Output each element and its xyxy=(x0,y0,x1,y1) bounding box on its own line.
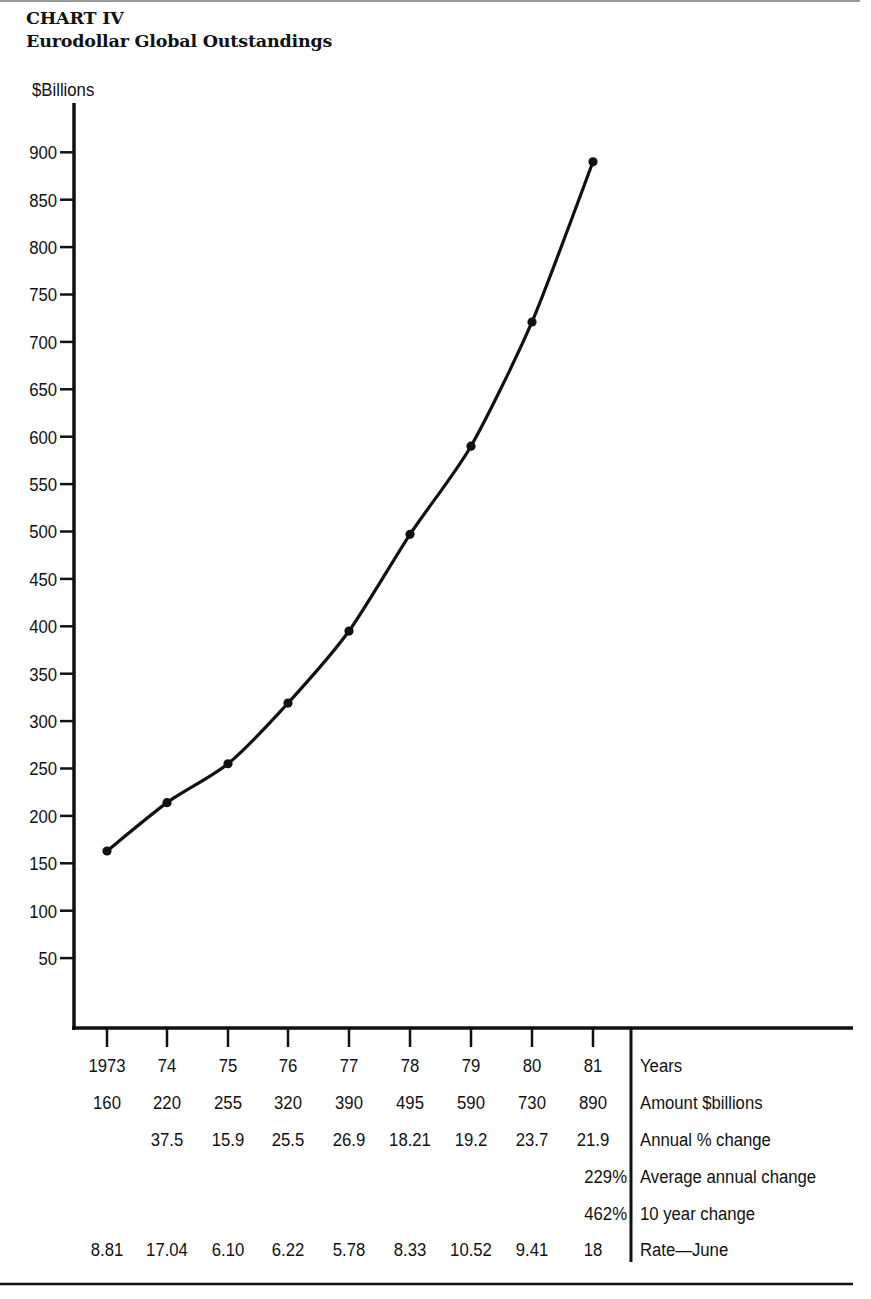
y-tick-label: 750 xyxy=(29,285,57,306)
data-table: 19737475767778798081Years160220255320390… xyxy=(88,1055,816,1260)
data-point-marker xyxy=(162,798,171,807)
data-series xyxy=(102,157,597,855)
rate-june-row-cell: 6.10 xyxy=(212,1239,245,1260)
annual-change-row-cell: 18.21 xyxy=(389,1129,431,1150)
years-row-cell: 1973 xyxy=(88,1055,125,1076)
data-point-marker xyxy=(283,698,292,707)
y-tick-label: 450 xyxy=(29,569,57,590)
years-row-cell: 74 xyxy=(158,1055,177,1076)
amount-row-cell: 320 xyxy=(274,1092,302,1113)
amount-row-cell: 495 xyxy=(396,1092,424,1113)
annual-change-row-cell: 37.5 xyxy=(151,1129,184,1150)
annual-change-row-cell: 21.9 xyxy=(577,1129,610,1150)
y-tick-label: 50 xyxy=(38,948,57,969)
y-tick-label: 600 xyxy=(29,427,57,448)
rate-june-row-cell: 9.41 xyxy=(516,1239,549,1260)
amount-row-cell: 890 xyxy=(579,1092,607,1113)
annual-change-row-cell: 26.9 xyxy=(333,1129,366,1150)
data-point-marker xyxy=(466,442,475,451)
rate-june-row-cell: 6.22 xyxy=(272,1239,305,1260)
years-row-cell: 78 xyxy=(401,1055,420,1076)
line-chart: 5010015020025030035040045050055060065070… xyxy=(0,0,871,1299)
years-row-cell: 81 xyxy=(584,1055,603,1076)
years-row-cell: 79 xyxy=(462,1055,481,1076)
y-tick-label: 250 xyxy=(29,759,57,780)
y-tick-label: 700 xyxy=(29,332,57,353)
years-row-cell: 80 xyxy=(523,1055,542,1076)
y-tick-label: 200 xyxy=(29,806,57,827)
y-tick-label: 500 xyxy=(29,522,57,543)
amount-row-cell: 730 xyxy=(518,1092,546,1113)
average-change-row-cell: 229% xyxy=(584,1166,627,1187)
data-point-marker xyxy=(588,157,597,166)
amount-row-cell: 160 xyxy=(93,1092,121,1113)
y-tick-label: 350 xyxy=(29,664,57,685)
y-tick-label: 900 xyxy=(29,142,57,163)
annual-change-row-cell: 15.9 xyxy=(212,1129,245,1150)
y-tick-label: 550 xyxy=(29,474,57,495)
years-row-cell: 77 xyxy=(340,1055,359,1076)
years-row-label: Years xyxy=(640,1055,682,1076)
y-tick-label: 650 xyxy=(29,379,57,400)
rate-june-row-label: Rate—June xyxy=(640,1239,728,1260)
average-change-row-label: Average annual change xyxy=(640,1166,816,1187)
y-tick-label: 400 xyxy=(29,616,57,637)
amount-row-label: Amount $billions xyxy=(640,1092,763,1113)
data-point-marker xyxy=(527,317,536,326)
rate-june-row-cell: 5.78 xyxy=(333,1239,366,1260)
y-tick-label: 100 xyxy=(29,901,57,922)
amount-row-cell: 590 xyxy=(457,1092,485,1113)
y-tick-label: 800 xyxy=(29,237,57,258)
annual-change-row-cell: 25.5 xyxy=(272,1129,305,1150)
amount-row-cell: 390 xyxy=(335,1092,363,1113)
rate-june-row-cell: 8.81 xyxy=(91,1239,124,1260)
series-line xyxy=(107,162,593,851)
rate-june-row-cell: 18 xyxy=(584,1239,603,1260)
amount-row-cell: 220 xyxy=(153,1092,181,1113)
rate-june-row-cell: 17.04 xyxy=(146,1239,188,1260)
annual-change-row-label: Annual % change xyxy=(640,1129,771,1150)
data-point-marker xyxy=(344,626,353,635)
amount-row-cell: 255 xyxy=(214,1092,242,1113)
ten-year-row-cell: 462% xyxy=(584,1203,627,1224)
annual-change-row-cell: 23.7 xyxy=(516,1129,549,1150)
y-axis-ticks: 5010015020025030035040045050055060065070… xyxy=(29,142,74,969)
y-tick-label: 300 xyxy=(29,711,57,732)
years-row-cell: 76 xyxy=(279,1055,298,1076)
annual-change-row-cell: 19.2 xyxy=(455,1129,488,1150)
y-tick-label: 850 xyxy=(29,190,57,211)
ten-year-row-label: 10 year change xyxy=(640,1203,755,1224)
x-axis-ticks xyxy=(107,1028,593,1047)
y-tick-label: 150 xyxy=(29,853,57,874)
rate-june-row-cell: 8.33 xyxy=(394,1239,427,1260)
years-row-cell: 75 xyxy=(219,1055,238,1076)
rate-june-row-cell: 10.52 xyxy=(450,1239,492,1260)
data-point-marker xyxy=(223,759,232,768)
data-point-marker xyxy=(405,530,414,539)
data-point-marker xyxy=(102,846,111,855)
